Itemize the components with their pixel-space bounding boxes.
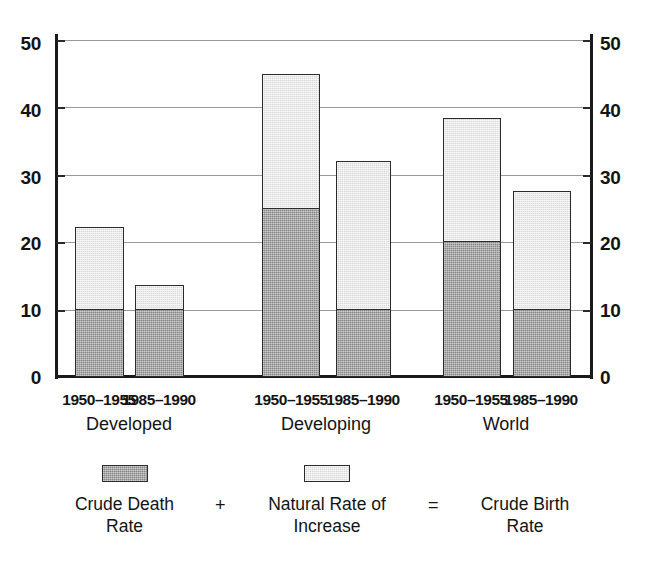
bar-segment-natural-rate-of-increase: [337, 162, 390, 310]
x-period-label-6: 1985–1990: [481, 392, 601, 408]
bar-developing-1950-1955: [262, 74, 320, 377]
y-tick-label-right-30: 30: [600, 168, 621, 187]
y-tick-label-left-30: 30: [20, 168, 41, 187]
gridline-40: [57, 107, 591, 108]
y-tick-label-right-50: 50: [600, 34, 621, 53]
y-tick-label-left-40: 40: [20, 101, 41, 120]
legend-label-crude-birth-rate: Crude Birth Rate: [462, 493, 588, 538]
y-tick-label-left-20: 20: [20, 234, 41, 253]
bar-segment-natural-rate-of-increase: [514, 192, 570, 311]
bar-segment-crude-death-rate: [76, 309, 123, 376]
legend-entry-crude-death-rate: Crude Death Rate: [63, 465, 186, 538]
y-tick-left-20: [57, 242, 65, 244]
y-tick-label-right-10: 10: [600, 301, 621, 320]
y-tick-right-50: [583, 40, 591, 42]
bar-world-1950-1955: [443, 118, 501, 377]
bar-developing-1985-1990: [336, 161, 391, 377]
x-period-label-2: 1985–1990: [99, 392, 219, 408]
bar-segment-crude-death-rate: [337, 309, 390, 376]
x-group-label-world: World: [446, 415, 566, 433]
y-tick-label-right-20: 20: [600, 234, 621, 253]
bar-segment-natural-rate-of-increase: [263, 75, 319, 210]
bar-segment-crude-death-rate: [444, 241, 500, 376]
x-period-label-4: 1985–1990: [303, 392, 423, 408]
y-tick-right-20: [583, 242, 591, 244]
bar-segment-crude-death-rate: [514, 309, 570, 376]
y-tick-left-40: [57, 107, 65, 109]
y-tick-label-right-40: 40: [600, 101, 621, 120]
legend-operator-equals: =: [428, 496, 439, 514]
y-tick-label-left-10: 10: [20, 301, 41, 320]
y-tick-left-30: [57, 175, 65, 177]
y-tick-left-50: [57, 40, 65, 42]
bar-world-1985-1990: [513, 191, 571, 377]
legend-swatch-dark: [102, 465, 148, 482]
x-group-label-developing: Developing: [266, 415, 386, 433]
bar-segment-crude-death-rate: [136, 309, 183, 376]
bar-segment-natural-rate-of-increase: [444, 119, 500, 243]
bar-segment-natural-rate-of-increase: [136, 286, 183, 310]
bar-developed-1950-1955: [75, 227, 124, 377]
gridline-20: [57, 242, 591, 243]
legend-entry-natural-rate-of-increase: Natural Rate of Increase: [252, 465, 402, 538]
gridline-30: [57, 175, 591, 176]
stacked-bar-chart: 50 40 30 20 10 0 50 40 30 20 10 0 1950–1…: [0, 0, 655, 563]
y-tick-left-10: [57, 310, 65, 312]
bar-segment-crude-death-rate: [263, 208, 319, 377]
y-tick-right-10: [583, 310, 591, 312]
y-tick-label-right-0: 0: [600, 368, 610, 387]
y-tick-label-left-0: 0: [31, 368, 41, 387]
y-tick-right-30: [583, 175, 591, 177]
legend-label-natural-rate-of-increase: Natural Rate of Increase: [252, 493, 402, 538]
plot-area: [57, 40, 591, 377]
y-tick-label-left-50: 50: [20, 34, 41, 53]
bar-developed-1985-1990: [135, 285, 184, 377]
x-group-label-developed: Developed: [69, 415, 189, 433]
bar-segment-natural-rate-of-increase: [76, 228, 123, 310]
y-tick-right-40: [583, 107, 591, 109]
gridline-50: [57, 40, 591, 41]
legend-swatch-light: [304, 465, 350, 482]
legend-label-crude-death-rate: Crude Death Rate: [63, 493, 186, 538]
legend-operator-plus: +: [215, 496, 226, 514]
legend-entry-crude-birth-rate: Crude Birth Rate: [462, 493, 588, 538]
chart-legend: Crude Death Rate + Natural Rate of Incre…: [0, 465, 655, 560]
